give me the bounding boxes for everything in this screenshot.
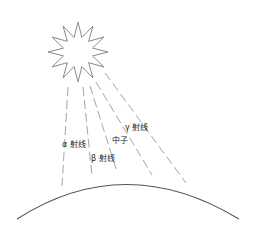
beta-ray-label: β 射线: [91, 154, 115, 163]
gamma-ray-label: γ 射线: [125, 123, 148, 132]
sun-star-icon: [48, 22, 108, 82]
alpha-ray-label: α 射线: [62, 140, 86, 149]
radiation-rays: [62, 73, 186, 186]
neutron-label: 中子: [112, 136, 128, 145]
alpha-ray-line: [62, 87, 68, 186]
earth-surface-arc: [17, 185, 239, 220]
diagram-graphics: [0, 0, 255, 239]
radiation-diagram: α 射线 β 射线 中子 γ 射线: [0, 0, 255, 239]
